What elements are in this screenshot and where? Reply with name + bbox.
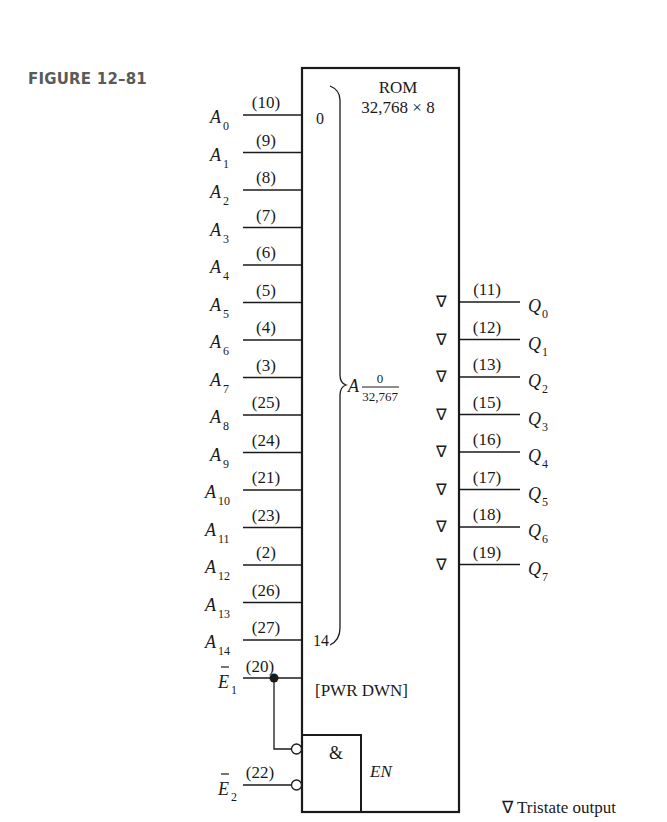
address-input-6: (4)A6	[209, 318, 302, 358]
pwr-down-label: [PWR DWN]	[315, 681, 408, 700]
signal-subscript: 5	[542, 495, 548, 509]
pin-number: (9)	[256, 131, 276, 150]
pin-number: (16)	[473, 430, 501, 449]
data-output-3: ∇(15)Q3	[435, 393, 549, 434]
svg-text:E: E	[217, 672, 229, 692]
svg-text:2: 2	[231, 790, 237, 804]
signal-name: Q	[528, 334, 541, 354]
address-input-7: (3)A7	[209, 356, 302, 396]
signal-subscript: 8	[223, 419, 229, 433]
pin-number: (15)	[473, 393, 501, 412]
signal-name: Q	[528, 409, 541, 429]
signal-subscript: 10	[218, 494, 230, 508]
signal-subscript: 11	[218, 532, 230, 546]
e1-pin: (20)	[246, 657, 274, 676]
signal-name: Q	[528, 446, 541, 466]
address-range-top: 0	[377, 371, 384, 386]
pin-number: (17)	[473, 468, 501, 487]
signal-name: A	[204, 632, 217, 652]
signal-subscript: 2	[542, 382, 548, 396]
signal-name: A	[209, 370, 222, 390]
address-brace	[330, 86, 346, 645]
address-input-10: (21)A10	[204, 468, 302, 508]
data-output-0: ∇(11)Q0	[435, 280, 549, 321]
address-input-4: (6)A4	[209, 243, 302, 283]
signal-subscript: 5	[223, 307, 229, 321]
signal-subscript: 4	[223, 269, 229, 283]
signal-subscript: 13	[218, 607, 230, 621]
signal-name: A	[209, 107, 222, 127]
tristate-icon: ∇	[435, 481, 447, 498]
signal-name: A	[209, 295, 222, 315]
pin-number: (19)	[473, 543, 501, 562]
tristate-icon: ∇	[435, 368, 447, 385]
signal-subscript: 1	[223, 157, 229, 171]
inversion-bubble-e1	[292, 744, 302, 754]
address-input-8: (25)A8	[209, 393, 302, 433]
address-input-9: (24)A9	[209, 431, 302, 471]
tristate-legend: ∇ Tristate output	[501, 798, 616, 817]
signal-name: Q	[528, 521, 541, 541]
address-input-3: (7)A3	[209, 206, 302, 246]
signal-name: A	[204, 595, 217, 615]
e1-label: E 1	[217, 667, 237, 697]
e2-label: E 2	[217, 774, 237, 804]
signal-name: Q	[528, 371, 541, 391]
pin-number: (10)	[252, 93, 280, 112]
inversion-bubble-e2	[292, 780, 302, 790]
pin-number: (23)	[252, 506, 280, 525]
signal-subscript: 4	[542, 457, 548, 471]
pin-number: (12)	[473, 318, 501, 337]
pin-number: (5)	[256, 281, 276, 300]
signal-name: A	[209, 257, 222, 277]
signal-name: A	[209, 182, 222, 202]
address-input-2: (8)A2	[209, 168, 302, 208]
address-first-index: 0	[316, 110, 324, 127]
tristate-icon: ∇	[435, 556, 447, 573]
pin-number: (24)	[252, 431, 280, 450]
signal-name: A	[209, 407, 222, 427]
signal-subscript: 0	[223, 119, 229, 133]
signal-subscript: 1	[542, 345, 548, 359]
signal-subscript: 6	[223, 344, 229, 358]
pin-number: (7)	[256, 206, 276, 225]
pin-number: (2)	[256, 543, 276, 562]
signal-name: A	[204, 482, 217, 502]
data-output-6: ∇(18)Q6	[435, 505, 549, 546]
signal-subscript: 9	[223, 457, 229, 471]
pin-number: (18)	[473, 505, 501, 524]
svg-text:1: 1	[231, 683, 237, 697]
tristate-icon: ∇	[435, 518, 447, 535]
signal-subscript: 3	[542, 420, 548, 434]
address-input-14: (27)A14	[204, 618, 302, 658]
and-gate-label: &	[329, 743, 343, 763]
data-output-4: ∇(16)Q4	[435, 430, 549, 471]
pin-number: (11)	[473, 280, 501, 299]
address-last-index: 14	[313, 632, 329, 649]
pin-number: (8)	[256, 168, 276, 187]
tristate-icon: ∇	[435, 406, 447, 423]
pin-number: (4)	[256, 318, 276, 337]
signal-subscript: 2	[223, 194, 229, 208]
signal-subscript: 7	[223, 382, 229, 396]
address-input-13: (26)A13	[204, 581, 302, 621]
signal-name: Q	[528, 484, 541, 504]
signal-name: A	[209, 332, 222, 352]
data-outputs: ∇(11)Q0∇(12)Q1∇(13)Q2∇(15)Q3∇(16)Q4∇(17)…	[435, 280, 549, 584]
address-inputs: (10)A0(9)A1(8)A2(7)A3(6)A4(5)A5(4)A6(3)A…	[204, 93, 302, 658]
e1-branch-wire	[274, 678, 291, 749]
signal-name: A	[209, 445, 222, 465]
signal-subscript: 6	[542, 532, 548, 546]
signal-name: A	[209, 145, 222, 165]
signal-name: A	[204, 520, 217, 540]
pin-number: (6)	[256, 243, 276, 262]
data-output-1: ∇(12)Q1	[435, 318, 549, 359]
tristate-icon: ∇	[435, 293, 447, 310]
tristate-icon: ∇	[435, 331, 447, 348]
data-output-5: ∇(17)Q5	[435, 468, 549, 509]
chip-name: ROM	[379, 78, 418, 97]
rom-block	[302, 68, 459, 812]
enable-label: EN	[369, 762, 393, 781]
pin-number: (26)	[252, 581, 280, 600]
e2-pin: (22)	[246, 763, 274, 782]
